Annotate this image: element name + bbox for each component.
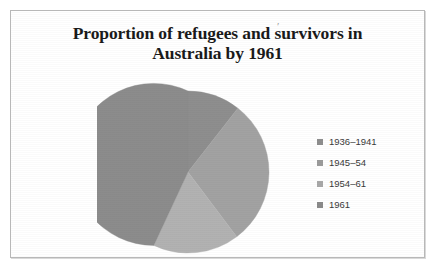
legend-item-1945-54[interactable]: 1945–54 [317,152,417,173]
legend-item-label: 1961 [329,194,350,215]
chart-frame: Proportion of refugees and survivors in … [10,10,425,258]
legend-item-1936-1941[interactable]: 1936–1941 [317,131,417,152]
legend-swatch-icon [317,181,323,187]
legend-item-1961[interactable]: 1961 [317,194,417,215]
legend-swatch-icon [317,202,323,208]
chart-title-line-2: Australia by 1961 [11,43,424,63]
legend-item-label: 1945–54 [329,152,366,173]
legend-item-1954-61[interactable]: 1954–61 [317,173,417,194]
stray-pen-mark: ′ [277,23,281,30]
chart-title: Proportion of refugees and survivors in … [11,23,424,63]
legend-swatch-icon [317,160,323,166]
legend-swatch-icon [317,139,323,145]
pie-chart-svg [97,81,279,263]
chart-legend: 1936–1941 1945–54 1954–61 1961 [317,131,417,215]
legend-item-label: 1936–1941 [329,131,377,152]
legend-item-label: 1954–61 [329,173,366,194]
pie-plot-area [97,81,279,263]
chart-title-line-1: Proportion of refugees and survivors in [11,23,424,43]
